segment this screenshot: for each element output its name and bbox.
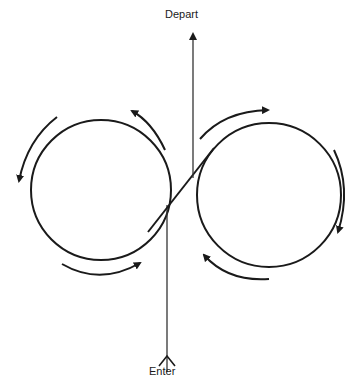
crossing-diagonal-line bbox=[148, 148, 214, 232]
left-loop-circle bbox=[31, 120, 171, 260]
right-loop-circle bbox=[197, 123, 341, 267]
depart-label: Depart bbox=[165, 8, 198, 20]
figure-eight-diagram bbox=[0, 0, 356, 385]
right-side-arrow-icon bbox=[334, 150, 344, 232]
enter-label: Enter bbox=[149, 365, 175, 377]
left-side-arrow-icon bbox=[19, 117, 57, 181]
left-bottom-arrow-icon bbox=[62, 263, 140, 275]
